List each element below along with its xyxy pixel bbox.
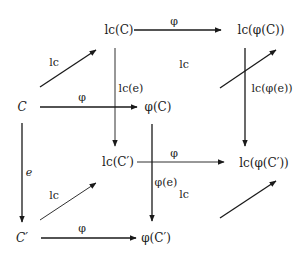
node-lc-C-prime-text: lc(C′): [102, 155, 134, 169]
node-phi-C-prime: φ(C′): [141, 232, 171, 244]
node-phi-C-prime-text: φ(C′): [141, 231, 171, 245]
node-phi-C: φ(C): [145, 101, 172, 113]
node-C-prime-text: C′: [16, 231, 28, 245]
node-lc-phi-C-prime: lc(φ(C′)): [239, 157, 289, 169]
node-C-prime: C′: [16, 232, 28, 244]
arrow-label-lcC-to-lcCp: lc(e): [119, 83, 144, 94]
node-C: C: [17, 101, 26, 113]
node-lc-C-text: lc(C): [104, 23, 133, 37]
arrow-label-Cp-to-lcCp: lc: [49, 190, 59, 201]
arrow-phiCp-to-lcphiCp: [220, 181, 276, 218]
arrow-label-C-to-phiC: φ: [78, 92, 86, 103]
arrow-label-phiC-to-phiCp: φ(e): [155, 177, 178, 188]
arrow-label-Cp-to-phiCp: φ: [78, 223, 86, 234]
arrow-label-lcCp-to-lcphiCp: φ: [170, 148, 178, 159]
node-lc-phi-C: lc(φ(C)): [238, 24, 285, 36]
arrow-label-phiC-to-lcphiC: lc: [179, 59, 189, 70]
arrow-label-C-to-Cp: e: [26, 167, 33, 178]
node-lc-C-prime: lc(C′): [102, 156, 134, 168]
node-phi-C-text: φ(C): [145, 100, 172, 114]
arrow-label-lcC-to-lcphiC: φ: [170, 16, 178, 27]
commutative-diagram: lc(C) lc(φ(C)) C φ(C) lc(C′) lc(φ(C′)) C…: [0, 0, 300, 260]
node-lc-C: lc(C): [104, 24, 133, 36]
arrow-label-C-to-lcC: lc: [49, 57, 59, 68]
arrow-label-lcphiC-to-lcphiCp: lc(φ(e)): [251, 83, 292, 94]
arrow-label-phiCp-to-lcphiCp: lc: [179, 189, 189, 200]
node-lc-phi-C-prime-text: lc(φ(C′)): [239, 156, 289, 170]
node-lc-phi-C-text: lc(φ(C)): [238, 23, 285, 37]
node-C-text: C: [17, 100, 26, 114]
arrows-layer: [0, 0, 300, 260]
